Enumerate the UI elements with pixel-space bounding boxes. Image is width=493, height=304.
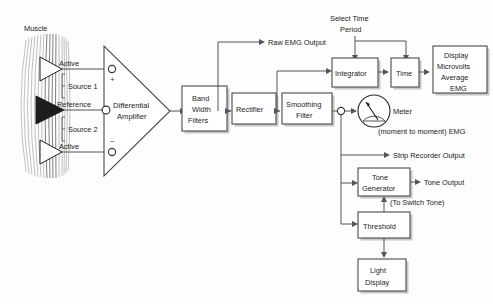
block-smoothing-filter[interactable]: Smoothing Filter	[282, 93, 335, 127]
display-label-1: Display	[444, 51, 469, 60]
muscle-label: Muscle	[24, 24, 47, 33]
display-label-2: Microvolts	[437, 62, 471, 71]
rectifier-label: Rectifier	[236, 105, 264, 114]
block-tone-generator[interactable]: Tone Generator	[358, 168, 413, 199]
strip-recorder-output-label: Strip Recorder Output	[393, 151, 465, 160]
block-time[interactable]: Time	[391, 58, 422, 90]
electrode-label-active-top: Active	[59, 59, 79, 68]
block-bandwidth-filters[interactable]: Band Width Filters	[182, 86, 230, 134]
electrode-label-reference: Reference	[57, 100, 91, 109]
to-switch-tone-label: (To Switch Tone)	[390, 198, 445, 207]
smoothing-label-1: Smoothing	[286, 100, 321, 109]
source-2-label: Source 2	[68, 125, 98, 134]
emg-block-diagram: Muscle Active Reference Active Source 1 …	[0, 0, 493, 304]
light-display-label-1: Light	[370, 266, 386, 275]
amplifier-label-line2: Amplifier	[117, 112, 147, 121]
select-time-period-line2: Period	[340, 25, 361, 34]
block-integrator[interactable]: Integrator	[332, 58, 381, 90]
meter-gauge[interactable]	[358, 95, 390, 127]
display-label-4: EMG	[450, 84, 467, 93]
bandwidth-label-2: Width	[192, 105, 211, 114]
terminal-plus-symbol: +	[110, 75, 115, 84]
moment-to-moment-label: (moment to moment) EMG	[378, 127, 466, 136]
tone-generator-label-1: Tone	[372, 173, 388, 182]
bandwidth-label-3: Filters	[188, 116, 208, 125]
block-light-display[interactable]: Light Display	[358, 259, 409, 294]
amplifier-terminal-negative[interactable]	[108, 148, 115, 155]
wire-select-time-period	[352, 36, 409, 61]
signal-junction-node[interactable]	[337, 107, 344, 114]
differential-amplifier: Differential Amplifier + −	[102, 46, 170, 176]
meter-label: Meter	[393, 107, 412, 116]
terminal-minus-symbol: −	[110, 137, 115, 146]
smoothing-label-2: Filter	[296, 111, 313, 120]
tone-generator-label-2: Generator	[362, 184, 396, 193]
time-label: Time	[396, 69, 412, 78]
amplifier-terminal-positive[interactable]	[108, 65, 115, 72]
integrator-label: Integrator	[335, 69, 367, 78]
block-display-microvolts[interactable]: Display Microvolts Average EMG	[433, 46, 490, 96]
source-1-label: Source 1	[68, 82, 98, 91]
block-threshold[interactable]: Threshold	[358, 212, 413, 241]
wire-threshold-to-light	[381, 238, 387, 258]
bandwidth-label-1: Band	[192, 94, 209, 103]
raw-emg-output-label: Raw EMG Output	[268, 38, 326, 47]
display-label-3: Average	[441, 73, 468, 82]
source-1-bracket	[62, 74, 65, 98]
amplifier-label-line1: Differential	[113, 101, 149, 110]
select-time-period-line1: Select Time	[330, 14, 369, 23]
amplifier-terminal-reference[interactable]	[102, 106, 110, 114]
light-display-label-2: Display	[365, 278, 390, 287]
electrode-label-active-bottom: Active	[59, 142, 79, 151]
threshold-label: Threshold	[363, 222, 396, 231]
tone-output-label: Tone Output	[424, 178, 464, 187]
block-rectifier[interactable]: Rectifier	[232, 93, 279, 127]
